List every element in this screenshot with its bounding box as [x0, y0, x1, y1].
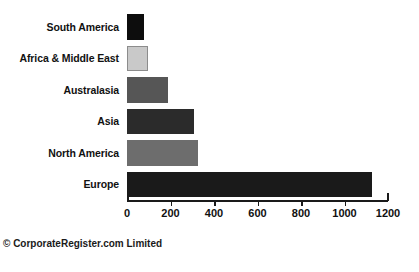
bar-row [127, 169, 388, 201]
category-label: South America [47, 21, 119, 33]
category-label: Europe [83, 178, 119, 190]
bar[interactable] [127, 109, 194, 135]
bar[interactable] [127, 14, 144, 40]
bar[interactable] [127, 77, 168, 103]
x-axis-tick [345, 200, 347, 206]
bar-row [127, 74, 388, 106]
bar-row [127, 106, 388, 138]
bar[interactable] [127, 172, 372, 198]
category-label-column: South AmericaAfrica & Middle EastAustral… [0, 11, 123, 200]
x-axis-tick-label: 1200 [376, 207, 400, 219]
category-label-row: South America [0, 11, 123, 43]
x-axis-tick-label: 1000 [332, 207, 356, 219]
bar[interactable] [127, 140, 198, 166]
x-axis-tick [301, 200, 303, 206]
x-axis-tick [171, 200, 173, 206]
category-label: North America [48, 147, 119, 159]
category-label-row: Africa & Middle East [0, 43, 123, 75]
x-axis-tick [214, 200, 216, 206]
copyright-notice: © CorporateRegister.com Limited [3, 238, 162, 249]
x-axis-tick-label: 800 [292, 207, 310, 219]
bar[interactable] [127, 46, 148, 72]
x-axis-tick-label: 400 [205, 207, 223, 219]
bar-row [127, 11, 388, 43]
category-label: Australasia [63, 84, 119, 96]
x-axis-tick-label: 600 [248, 207, 266, 219]
category-label: Asia [97, 115, 119, 127]
category-label-row: North America [0, 137, 123, 169]
category-label-row: Australasia [0, 74, 123, 106]
category-label-row: Asia [0, 106, 123, 138]
x-axis-left-cap [127, 193, 129, 201]
category-label: Africa & Middle East [19, 52, 119, 64]
x-axis-right-cap [387, 193, 389, 201]
x-axis-tick [258, 200, 260, 206]
bar-chart: South AmericaAfrica & Middle EastAustral… [0, 0, 419, 272]
category-label-row: Europe [0, 169, 123, 201]
bar-row [127, 137, 388, 169]
bar-row [127, 43, 388, 75]
x-axis-tick-label: 200 [161, 207, 179, 219]
x-axis-tick-label: 0 [124, 207, 130, 219]
plot-area [127, 11, 388, 200]
